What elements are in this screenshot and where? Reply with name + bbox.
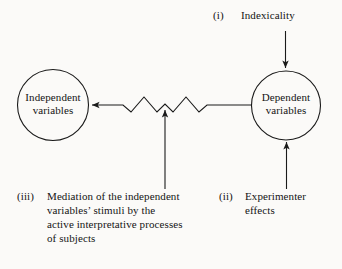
- node-label-line: Independent: [3, 91, 103, 104]
- annotation-line: active interpretative processes: [47, 217, 227, 231]
- annotation-line: Indexicality: [241, 8, 338, 22]
- node-label-dependent-variables: Dependent variables: [238, 91, 334, 117]
- annotation-line: Experimenter: [245, 189, 339, 203]
- annotation-text: Indexicality: [241, 8, 338, 22]
- annotation-marker: (i): [213, 8, 237, 22]
- annotation-mediation: (iii) Mediation of the independent varia…: [17, 189, 227, 245]
- annotation-marker: (iii): [17, 189, 43, 203]
- annotation-line: variables’ stimuli by the: [47, 203, 227, 217]
- annotation-marker: (ii): [219, 189, 241, 203]
- node-label-line: variables: [3, 104, 103, 117]
- annotation-indexicality: (i) Indexicality: [213, 8, 338, 22]
- connector-dependent-to-independent: [92, 97, 252, 112]
- annotation-experimenter-effects: (ii) Experimenter effects: [219, 189, 339, 217]
- node-label-independent-variables: Independent variables: [3, 91, 103, 117]
- annotation-line: of subjects: [47, 231, 227, 245]
- figure-canvas: Independent variables Dependent variable…: [0, 0, 342, 269]
- annotation-line: Mediation of the independent: [47, 189, 227, 203]
- node-label-line: variables: [238, 104, 334, 117]
- annotation-line: effects: [245, 203, 339, 217]
- annotation-text: Experimenter effects: [245, 189, 339, 217]
- node-label-line: Dependent: [238, 91, 334, 104]
- annotation-text: Mediation of the independent variables’ …: [47, 189, 227, 245]
